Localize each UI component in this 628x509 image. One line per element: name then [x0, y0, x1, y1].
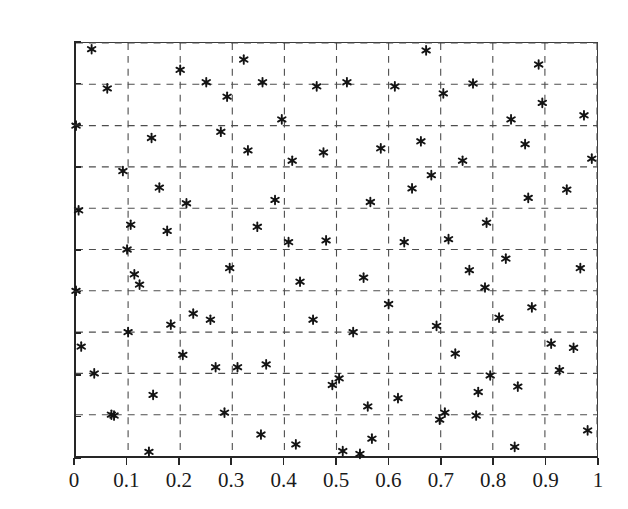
x-axis-tick-label: 0.7: [428, 470, 454, 491]
scatter-plot-figure: 00.10.20.30.40.50.60.70.80.91 00.10.20.3…: [0, 0, 628, 509]
x-axis-tick-mark: [597, 458, 599, 465]
x-axis-tick-mark: [335, 458, 337, 465]
x-axis-tick-mark: [230, 458, 232, 465]
x-axis-tick-labels: 00.10.20.30.40.50.60.70.80.91: [0, 0, 628, 509]
x-axis-tick-mark: [440, 458, 442, 465]
x-axis-tick-mark: [283, 458, 285, 465]
x-axis-tick-label: 0.4: [270, 470, 296, 491]
x-axis-tick-label: 0.8: [480, 470, 506, 491]
x-axis-tick-label: 1: [593, 470, 604, 491]
x-axis-tick-mark: [178, 458, 180, 465]
x-axis-tick-mark: [73, 458, 75, 465]
x-axis-tick-label: 0.3: [218, 470, 244, 491]
x-axis-tick-label: 0.2: [166, 470, 192, 491]
x-axis-tick-mark: [126, 458, 128, 465]
x-axis-tick-label: 0: [69, 470, 80, 491]
x-axis-tick-mark: [388, 458, 390, 465]
x-axis-tick-label: 0.9: [532, 470, 558, 491]
x-axis-tick-mark: [545, 458, 547, 465]
x-axis-tick-label: 0.6: [375, 470, 401, 491]
x-axis-tick-mark: [492, 458, 494, 465]
x-axis-tick-label: 0.1: [113, 470, 139, 491]
x-axis-tick-label: 0.5: [323, 470, 349, 491]
